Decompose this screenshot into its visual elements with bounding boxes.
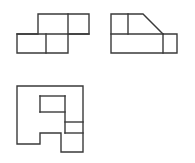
front-view [110,13,178,54]
top-view [16,13,90,54]
technical-drawing-canvas [0,0,195,163]
side-view [16,85,84,153]
